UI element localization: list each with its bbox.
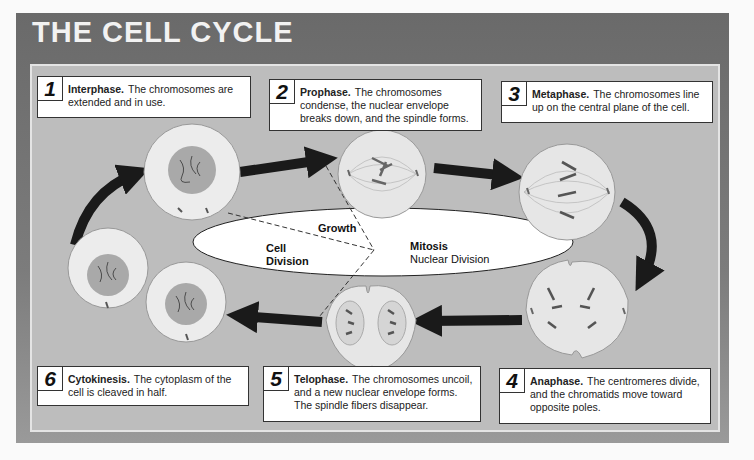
- cell-cytokinesis-lower: [146, 262, 226, 342]
- arrow-telophase-to-cytokinesis: [242, 316, 322, 322]
- cell-division-label-line2: Division: [266, 255, 309, 268]
- stage-name: Prophase.: [300, 86, 351, 98]
- cell-telophase: [326, 286, 416, 372]
- arrow-prophase-to-metaphase: [434, 168, 508, 176]
- stage-card-telophase: 5 Telophase.The chromosomes uncoil, and …: [263, 366, 481, 422]
- stage-name: Cytokinesis.: [68, 373, 130, 385]
- stage-card-interphase: 1 Interphase.The chromosomes are extende…: [37, 76, 251, 118]
- stage-number: 4: [500, 369, 525, 393]
- stage-card-prophase: 2 Prophase.The chromosomes condense, the…: [269, 79, 482, 131]
- stage-name: Anaphase.: [530, 375, 583, 387]
- stage-number: 5: [264, 367, 289, 391]
- cell-cytokinesis-upper: [68, 228, 148, 308]
- stage-card-anaphase: 4 Anaphase.The centromeres divide, and t…: [499, 368, 711, 424]
- stage-number: 6: [38, 367, 63, 391]
- cell-prophase: [338, 130, 426, 218]
- cell-anaphase: [526, 260, 628, 358]
- stage-name: Metaphase.: [532, 88, 589, 100]
- arrow-interphase-to-prophase: [240, 160, 322, 172]
- mitosis-label: Mitosis: [410, 240, 448, 253]
- stage-number: 1: [38, 77, 63, 101]
- stage-card-metaphase: 3 Metaphase.The chromosomes line up on t…: [501, 81, 713, 123]
- stage-card-cytokinesis: 6 Cytokinesis.The cytoplasm of the cell …: [37, 366, 249, 406]
- cell-metaphase: [519, 144, 615, 240]
- growth-label: Growth: [318, 222, 357, 235]
- cell-interphase: [144, 124, 240, 220]
- nuclear-division-label: Nuclear Division: [410, 253, 489, 266]
- arrow-anaphase-to-telophase: [426, 320, 522, 321]
- stage-name: Interphase.: [68, 83, 124, 95]
- stage-name: Telophase.: [294, 373, 348, 385]
- stage-number: 2: [270, 80, 295, 104]
- arrow-metaphase-to-anaphase: [622, 202, 652, 277]
- cell-division-label-line1: Cell: [266, 242, 286, 255]
- stage-number: 3: [502, 82, 527, 106]
